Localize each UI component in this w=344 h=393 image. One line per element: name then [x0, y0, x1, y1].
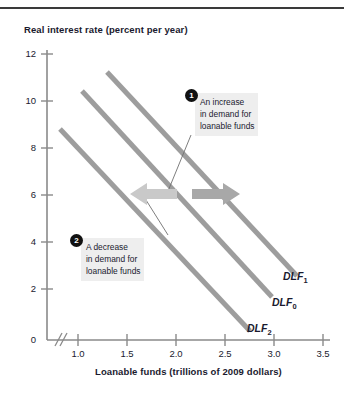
y-tick-label-2: 2 [14, 283, 36, 294]
callout-2-badge: 2 [70, 234, 83, 247]
callout-1-line-1: An increase [200, 96, 254, 108]
loanable-funds-demand-chart: Real interest rate (percent per year) Lo… [0, 0, 344, 393]
curve-dlf2 [60, 129, 250, 331]
callout-2-line-1: A decrease [86, 241, 140, 253]
callout-1-badge: 1 [185, 89, 198, 102]
x-tick-label-3-0: 3.0 [259, 348, 289, 359]
curve-label-dlf2: DLF2 [247, 322, 272, 337]
y-tick-label-6: 6 [14, 189, 36, 200]
x-tick-label-3-5: 3.5 [308, 348, 338, 359]
curve-label-dlf2-sub: 2 [267, 328, 271, 337]
callout-2-line-3: loanable funds [86, 265, 140, 277]
callout-box-2: A decrease in demand for loanable funds [81, 238, 144, 281]
curve-label-dlf1-text: DLF [283, 270, 303, 282]
curve-label-dlf0-sub: 0 [292, 302, 296, 311]
callout-box-1: An increase in demand for loanable funds [195, 93, 258, 136]
curve-label-dlf1: DLF1 [283, 270, 308, 285]
x-axis-title: Loanable funds (trillions of 2009 dollar… [95, 366, 282, 377]
callout-1-line-2: in demand for [200, 108, 254, 120]
y-tick-label-10: 10 [14, 95, 36, 106]
callout-2-line-2: in demand for [86, 253, 140, 265]
callout-1-leader [166, 135, 191, 196]
curve-label-dlf0: DLF0 [272, 296, 297, 311]
y-tick-label-4: 4 [14, 236, 36, 247]
curve-label-dlf0-text: DLF [272, 296, 292, 308]
chart-canvas [0, 0, 344, 393]
y-tick-label-12: 12 [14, 48, 36, 59]
curve-label-dlf2-text: DLF [247, 322, 267, 334]
y-tick-label-0: 0 [14, 334, 36, 345]
y-tick-label-8: 8 [14, 142, 36, 153]
y-axis-title: Real interest rate (percent per year) [24, 24, 188, 35]
callout-1-line-3: loanable funds [200, 120, 254, 132]
x-tick-label-1-0: 1.0 [63, 348, 93, 359]
x-tick-label-2-5: 2.5 [210, 348, 240, 359]
curve-label-dlf1-sub: 1 [303, 276, 307, 285]
x-tick-label-1-5: 1.5 [112, 348, 142, 359]
x-tick-label-2-0: 2.0 [161, 348, 191, 359]
